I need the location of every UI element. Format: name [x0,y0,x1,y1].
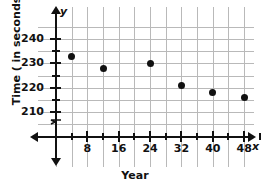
x-axis-tick-label: 32 [168,142,194,155]
data-point [241,94,248,101]
y-axis-minor-tick [52,50,60,52]
gridline-horizontal [38,27,254,28]
x-axis-tick [212,131,214,142]
x-axis-minor-tick [196,133,198,140]
y-axis-tick [50,87,61,89]
y-axis-tick [50,38,61,40]
x-axis-line [35,136,252,138]
x-axis-minor-tick [227,133,229,140]
gridline-horizontal [38,124,254,125]
scatter-plot: Time ( in seconds) 210220230240 81624324… [0,0,270,188]
x-axis-tick [180,131,182,142]
y-axis-tick-label: 240 [14,32,44,45]
x-axis-minor-tick [133,133,135,140]
x-axis-minor-tick [165,133,167,140]
x-axis-tick [86,131,88,142]
x-axis-minor-tick [259,133,261,140]
gridline-horizontal [38,39,254,40]
y-axis-break-icon [50,117,62,127]
y-axis-tick [50,62,61,64]
gridline-horizontal [38,112,254,113]
data-point [147,60,154,67]
x-axis-arrow-left-icon [30,132,38,142]
data-point [100,65,107,72]
x-axis-minor-tick [71,133,73,140]
x-axis-tick [149,131,151,142]
x-axis-letter: x [252,140,259,153]
x-axis-tick [118,131,120,142]
gridline-horizontal [38,63,254,64]
y-axis-arrow-down-icon [51,158,61,166]
gridline-horizontal [38,100,254,101]
x-axis-tick-label: 16 [106,142,132,155]
x-axis-tick [243,131,245,142]
y-axis-letter: y [60,5,67,18]
y-axis-minor-tick [52,99,60,101]
x-axis-tick-label: 8 [74,142,100,155]
gridline-horizontal [38,88,254,89]
y-axis-tick [50,111,61,113]
y-axis-tick-label: 210 [14,105,44,118]
y-axis-minor-tick [52,75,60,77]
x-axis-minor-tick [102,133,104,140]
x-axis-tick-label: 24 [137,142,163,155]
y-axis-tick-label: 230 [14,56,44,69]
data-point [178,82,185,89]
y-axis-tick-label: 220 [14,81,44,94]
gridline-horizontal [38,76,254,77]
data-point [68,53,75,60]
x-axis-title: Year [0,169,270,182]
x-axis-tick-label: 40 [200,142,226,155]
